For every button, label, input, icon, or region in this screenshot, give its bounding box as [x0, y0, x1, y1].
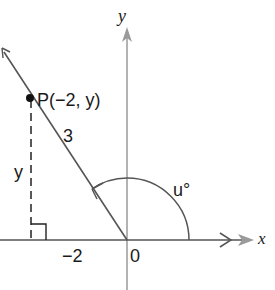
point-p-label: P(−2, y) [37, 90, 101, 110]
y-axis-label: y [116, 6, 126, 26]
origin-label: 0 [130, 246, 140, 266]
vertical-segment-label: y [14, 162, 23, 182]
x-tick-label: −2 [62, 246, 83, 266]
angle-label: u° [173, 180, 190, 200]
right-angle-marker-icon [31, 224, 46, 240]
diagram-canvas: y x P(−2, y) 3 y −2 0 u° [0, 0, 275, 290]
x-axis-label: x [257, 229, 266, 248]
diagram-svg: y x P(−2, y) 3 y −2 0 u° [0, 0, 275, 290]
side-length-label: 3 [63, 126, 73, 146]
point-p-dot [26, 94, 34, 102]
angle-arc-arrow-icon [92, 183, 103, 199]
